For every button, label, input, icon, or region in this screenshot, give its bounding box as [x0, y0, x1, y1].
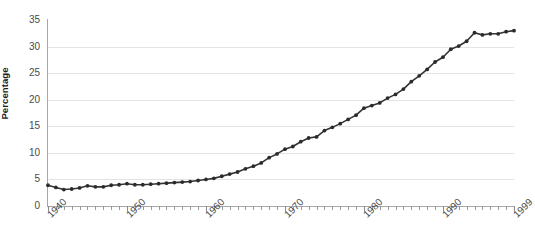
data-point: [125, 182, 129, 186]
data-point: [46, 183, 50, 187]
data-point: [315, 135, 319, 139]
data-point: [101, 185, 105, 189]
data-point: [109, 183, 113, 187]
data-point: [267, 156, 271, 160]
data-point: [291, 145, 295, 149]
data-point: [307, 136, 311, 140]
data-point: [93, 185, 97, 189]
data-point: [473, 31, 477, 35]
series-line: [48, 31, 514, 190]
data-point: [425, 68, 429, 72]
data-point: [323, 129, 327, 133]
data-point: [378, 101, 382, 105]
data-point: [465, 39, 469, 43]
data-point: [117, 183, 121, 187]
data-point: [196, 179, 200, 183]
data-point: [386, 96, 390, 100]
data-point: [259, 161, 263, 165]
data-point: [188, 180, 192, 184]
data-point: [275, 152, 279, 156]
data-point: [54, 186, 58, 190]
data-point: [481, 33, 485, 37]
data-point: [133, 183, 137, 187]
data-point: [362, 106, 366, 110]
data-point: [283, 147, 287, 151]
data-point: [220, 174, 224, 178]
data-point: [354, 113, 358, 117]
data-point: [346, 117, 350, 121]
data-point: [149, 182, 153, 186]
data-point: [512, 29, 516, 33]
data-point: [338, 122, 342, 126]
data-point: [78, 186, 82, 190]
data-point: [370, 104, 374, 108]
data-point: [441, 55, 445, 59]
data-point: [457, 44, 461, 48]
data-point: [236, 170, 240, 174]
data-point: [433, 60, 437, 64]
data-point: [172, 181, 176, 185]
data-point: [496, 32, 500, 36]
data-point: [330, 125, 334, 129]
data-point: [165, 181, 169, 185]
data-point: [141, 183, 145, 187]
data-point: [86, 184, 90, 188]
data-point: [204, 178, 208, 182]
data-point: [299, 140, 303, 144]
data-point: [402, 87, 406, 91]
data-point: [504, 30, 508, 34]
data-point: [157, 182, 161, 186]
data-point: [62, 188, 66, 192]
data-point: [244, 167, 248, 171]
data-point: [212, 176, 216, 180]
data-point: [70, 187, 74, 191]
data-point: [394, 93, 398, 97]
data-point: [417, 74, 421, 78]
series-markers: [46, 29, 516, 192]
data-point: [228, 172, 232, 176]
data-point: [180, 180, 184, 184]
data-point: [409, 80, 413, 84]
data-point: [488, 32, 492, 36]
data-point: [449, 47, 453, 51]
data-point: [251, 164, 255, 168]
